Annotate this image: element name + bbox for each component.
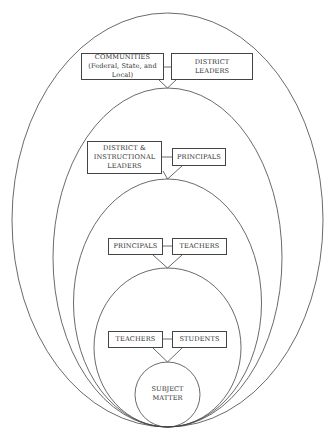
core-label-subject-matter: SUBJECT MATTER	[137, 385, 198, 403]
box-principals-level-3: PRINCIPALS	[108, 238, 163, 255]
box-communities: COMMUNITIES (Federal, State, and Local)	[81, 53, 164, 80]
box-students: STUDENTS	[172, 331, 227, 348]
box-district-instructional-leaders: DISTRICT & INSTRUCTIONAL LEADERS	[87, 141, 162, 174]
arrow-connector	[163, 166, 182, 179]
ellipse-level-1	[12, 13, 323, 427]
arrow-connector	[153, 348, 182, 362]
box-teachers-level-4: TEACHERS	[108, 331, 163, 348]
box-teachers-level-3: TEACHERS	[172, 238, 227, 255]
ellipse-level-2	[53, 88, 282, 427]
nested-ellipses-diagram	[0, 0, 331, 438]
arrow-connector	[153, 255, 182, 268]
arrow-connector	[159, 80, 176, 88]
box-principals-level-2: PRINCIPALS	[172, 148, 226, 166]
box-district-leaders: DISTRICT LEADERS	[171, 53, 253, 80]
